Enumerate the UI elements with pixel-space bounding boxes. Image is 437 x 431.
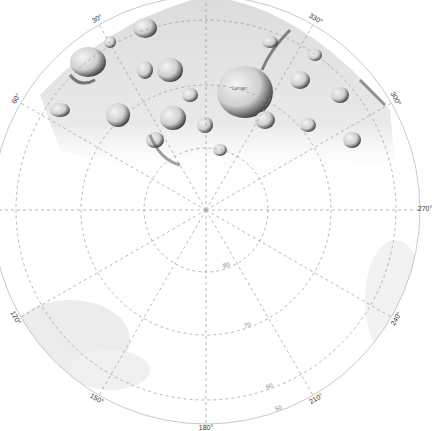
meridian-150 <box>99 210 206 395</box>
meridian-210 <box>206 210 313 395</box>
longitude-label: 270° <box>415 205 435 212</box>
longitude-label: 180° <box>196 424 216 431</box>
terrain-relief <box>10 0 425 390</box>
crater-label-lyman: Lyman <box>232 85 247 91</box>
meridian-240 <box>206 210 391 317</box>
meridian-120 <box>21 210 206 317</box>
